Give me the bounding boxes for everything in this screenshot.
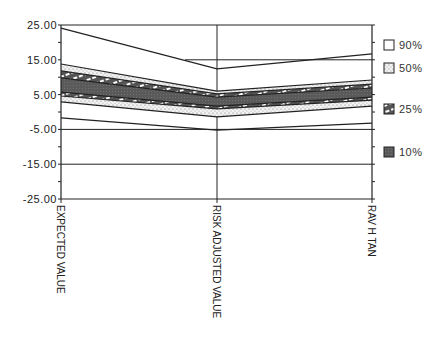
legend-label: 10%	[399, 146, 423, 158]
legend-label: 50%	[399, 62, 423, 74]
y-tick-label: 25.00	[27, 19, 57, 31]
legend: 90%50%25%10%	[384, 39, 423, 158]
y-tick-label: -5.00	[29, 123, 57, 135]
x-category-label: RISK ADJUSTED VALUE	[211, 205, 222, 319]
legend-item-90pct: 90%	[384, 39, 423, 51]
x-axis-category-labels: EXPECTED VALUERISK ADJUSTED VALUERAV H T…	[55, 205, 377, 319]
legend-label: 25%	[399, 103, 423, 115]
legend-item-10pct: 10%	[384, 146, 423, 158]
legend-swatch-icon	[384, 104, 394, 114]
y-tick-label: -15.00	[23, 158, 57, 170]
legend-swatch-icon	[384, 63, 394, 73]
legend-swatch-icon	[384, 147, 394, 157]
y-axis-tick-labels: 25.0015.005.00-5.00-15.00-25.00	[23, 19, 57, 205]
legend-swatch-icon	[384, 40, 394, 50]
y-tick-label: 5.00	[34, 89, 57, 101]
legend-label: 90%	[399, 39, 423, 51]
x-category-label: EXPECTED VALUE	[55, 205, 66, 294]
legend-item-50pct: 50%	[384, 62, 423, 74]
y-tick-label: 15.00	[27, 54, 57, 66]
legend-item-25pct: 25%	[384, 103, 423, 115]
x-category-label: RAV H TAN	[366, 205, 377, 257]
percentile-band-chart: 25.0015.005.00-5.00-15.00-25.00 EXPECTED…	[0, 0, 439, 340]
y-tick-label: -25.00	[23, 193, 57, 205]
